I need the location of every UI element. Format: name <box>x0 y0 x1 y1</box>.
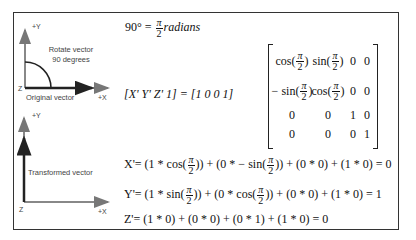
matrix-cell: 0 <box>325 108 331 123</box>
row-vector-equation: [X' Y' Z' 1] = [1 0 0 1] <box>124 87 233 102</box>
matrix-cell: 0 <box>364 108 370 123</box>
matrix-cell: sin(π2) <box>312 51 343 72</box>
matrix-right-bracket <box>373 44 378 149</box>
transformed-vector-label: Transformed vector <box>28 168 93 177</box>
rotate-label-line2: 90 degrees <box>46 55 96 65</box>
matrix-cell: cos(π2) <box>275 51 308 72</box>
matrix-cell: 0 <box>325 127 331 142</box>
matrix-cell: 0 <box>364 84 370 99</box>
rotate-label: Rotate vector 90 degrees <box>46 45 96 65</box>
matrix-cell: 0 <box>350 84 356 99</box>
top-x-axis-label: +X <box>98 94 107 101</box>
matrix-cell: 0 <box>350 127 356 142</box>
top-y-axis-label: +Y <box>32 23 41 30</box>
z-prime-equation: Z'= (1 * 0) + (0 * 0) + (0 * 1) + (1 * 0… <box>124 212 328 227</box>
angle-lhs: 90° = <box>125 20 152 34</box>
matrix-cell: 0 <box>350 54 356 69</box>
x-prime-equation: X'= (1 * cos(π2)) + (0 * − sin(π2)) + (0… <box>124 155 391 176</box>
bottom-z-label: Z <box>19 206 23 213</box>
matrix-cell: − sin(π2) <box>272 81 313 102</box>
rotation-arc <box>25 62 51 88</box>
pi-over-2: π 2 <box>156 18 163 39</box>
matrix-cell: 0 <box>289 127 295 142</box>
angle-equation: 90° = π 2 radians <box>125 18 200 39</box>
matrix-cell: 0 <box>289 108 295 123</box>
y-prime-equation: Y'= (1 * sin(π2)) + (0 * cos(π2)) + (0 *… <box>124 185 382 206</box>
rotation-matrix: cos(π2) sin(π2) 0 0 − sin(π2) cos(π2) 0 … <box>268 44 378 149</box>
rotate-label-line1: Rotate vector <box>46 45 96 55</box>
bottom-y-axis-label: +Y <box>32 112 41 119</box>
angle-rhs: radians <box>164 20 201 34</box>
matrix-cell: 1 <box>364 127 370 142</box>
matrix-cell: 0 <box>364 54 370 69</box>
top-z-label: Z <box>18 85 22 92</box>
bottom-x-axis-label: +X <box>98 208 107 215</box>
original-vector-label: Original vector <box>26 93 74 102</box>
matrix-cell: 1 <box>350 108 356 123</box>
matrix-cell: cos(π2) <box>311 81 344 102</box>
transformed-vector-diagram <box>24 118 108 202</box>
